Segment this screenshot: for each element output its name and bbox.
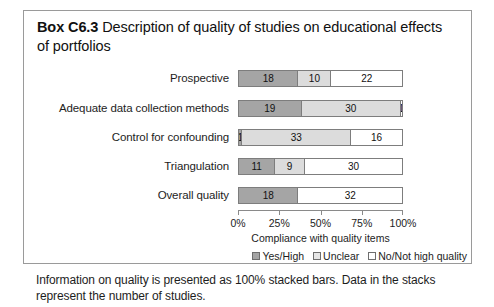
bar-segment-value: 18 [263, 73, 274, 84]
legend-swatch-unclear [313, 252, 321, 260]
bar-track: 11930 [238, 158, 403, 175]
bar-segment-value: 19 [264, 103, 275, 114]
page-title: Box C6.3 Description of quality of studi… [37, 18, 457, 55]
bar-category-label: Triangulation [24, 158, 229, 175]
bar-row: Adequate data collection methods19301 [24, 100, 473, 117]
bar-row: Triangulation11930 [24, 158, 473, 175]
legend-item: No/Not high quality [368, 250, 467, 262]
bar-segment: 22 [330, 70, 403, 87]
legend-item: Yes/High [252, 250, 304, 262]
bar-row: Control for confounding13316 [24, 129, 473, 146]
axis-tick [238, 211, 239, 215]
box-title-text: Description of quality of studies on edu… [37, 19, 442, 54]
footnote: Information on quality is presented as 1… [36, 273, 461, 304]
axis-tick-label: 100% [373, 217, 433, 229]
bar-segment: 11 [238, 158, 274, 175]
axis-tick [321, 211, 322, 215]
bar-category-label: Overall quality [24, 187, 229, 204]
axis-tick [402, 211, 403, 215]
bar-segment: 19 [238, 100, 301, 117]
legend-swatch-yes [252, 252, 260, 260]
bar-segment: 9 [274, 158, 304, 175]
bar-segment-value: 33 [291, 132, 302, 143]
bar-segment: 32 [297, 187, 403, 204]
bar-category-label: Adequate data collection methods [24, 100, 229, 117]
box-number: Box C6.3 [37, 19, 98, 35]
box-frame: Box C6.3 Description of quality of studi… [23, 10, 472, 264]
bar-segment-value: 16 [371, 132, 382, 143]
legend-label: Unclear [323, 250, 359, 262]
axis-tick [362, 211, 363, 215]
bar-category-label: Control for confounding [24, 129, 229, 146]
bar-segment: 33 [241, 129, 350, 146]
bar-segment: 30 [304, 158, 403, 175]
bar-track: 181022 [238, 70, 403, 87]
bar-segment-value: 32 [345, 190, 356, 201]
stacked-bar-chart: Prospective181022Adequate data collectio… [24, 57, 473, 263]
bar-segment: 10 [297, 70, 330, 87]
bar-track: 19301 [238, 100, 403, 117]
bar-segment-value: 9 [287, 161, 293, 172]
bar-segment: 1 [400, 100, 403, 117]
bar-segment-value: 10 [309, 73, 320, 84]
bar-track: 1832 [238, 187, 403, 204]
bar-segment-value: 18 [263, 190, 274, 201]
legend-label: No/Not high quality [378, 250, 467, 262]
bar-segment: 18 [238, 70, 297, 87]
bar-row: Prospective181022 [24, 70, 473, 87]
bar-segment: 18 [238, 187, 297, 204]
legend-label: Yes/High [262, 250, 304, 262]
bar-segment-value: 11 [251, 161, 261, 172]
bar-segment: 16 [350, 129, 403, 146]
bar-track: 13316 [238, 129, 403, 146]
bar-category-label: Prospective [24, 70, 229, 87]
chart-legend: Yes/HighUnclearNo/Not high quality [192, 250, 467, 262]
bar-row: Overall quality1832 [24, 187, 473, 204]
x-axis-tick-labels: 0%25%50%75%100% [208, 217, 433, 231]
legend-item: Unclear [313, 250, 359, 262]
legend-swatch-no [368, 252, 376, 260]
bar-segment-value: 1 [400, 103, 403, 114]
axis-tick [279, 211, 280, 215]
bar-segment-value: 22 [361, 73, 372, 84]
bar-segment-value: 30 [345, 103, 356, 114]
x-axis-title: Compliance with quality items [238, 232, 403, 244]
bar-segment: 30 [301, 100, 400, 117]
bar-segment-value: 30 [348, 161, 359, 172]
x-axis [238, 210, 403, 217]
